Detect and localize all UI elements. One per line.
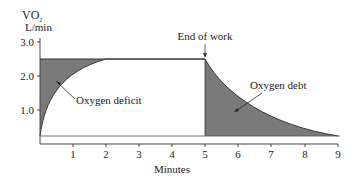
- x-tick-label: 7: [268, 148, 274, 160]
- y-tick-label: 2.0: [20, 70, 34, 82]
- x-tick-label: 5: [202, 148, 208, 160]
- x-tick-label: 3: [136, 148, 142, 160]
- x-tick-label: 8: [302, 148, 308, 160]
- y-axis-units: L/min: [25, 21, 52, 33]
- arrowhead-icon: [203, 53, 207, 58]
- x-tick-label: 9: [335, 148, 341, 160]
- x-tick-label: 6: [235, 148, 241, 160]
- y-tick-label: 3.0: [20, 36, 34, 48]
- x-tick-label: 4: [169, 148, 175, 160]
- oxygen-debt-area: [205, 59, 338, 136]
- x-axis-title: Minutes: [154, 163, 190, 175]
- x-tick-label: 1: [70, 148, 76, 160]
- vo2-chart: VO2 L/min 3.0 2.0 1.0 1 2 3 4 5 6 7 8 9 …: [0, 0, 359, 179]
- end-of-work-label: End of work: [178, 30, 233, 42]
- y-tick-label: 1.0: [20, 104, 34, 116]
- oxygen-deficit-arrow-icon: [58, 83, 75, 99]
- x-tick-label: 2: [103, 148, 109, 160]
- oxygen-debt-label: Oxygen debt: [250, 79, 307, 91]
- oxygen-deficit-label: Oxygen deficit: [76, 94, 142, 106]
